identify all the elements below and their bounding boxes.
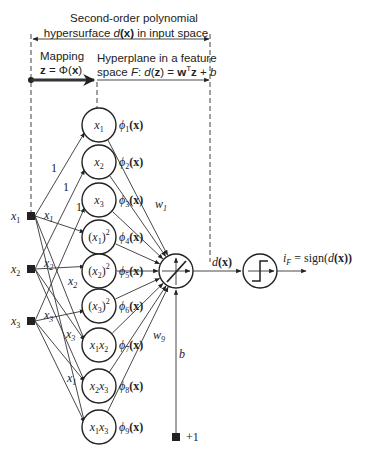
feature-phi-label: ϕ4(x): [119, 230, 143, 246]
bias-label: b: [179, 347, 185, 361]
sign-node: [243, 254, 277, 288]
summation-node: [159, 254, 193, 288]
decision-value-label: d(x): [212, 255, 232, 269]
edge-label-x3-b: x3: [65, 327, 75, 343]
bias-terminal-node: [172, 433, 180, 441]
input-node-label: x3: [10, 314, 20, 330]
feature-phi-label: ϕ7(x): [119, 338, 143, 354]
feature-to-sum-edge: [110, 176, 166, 256]
feature-node: x2ϕ2(x): [82, 145, 143, 179]
edge-label-x2-b: x2: [67, 274, 77, 290]
input-node-x2: [27, 265, 35, 273]
edge-label-one-2: 1: [63, 180, 69, 194]
edge-label-x1-a: x1: [43, 208, 53, 224]
feature-phi-label: ϕ5(x): [119, 264, 143, 280]
edge-label-one-3: 1: [76, 200, 82, 214]
feature-phi-label: ϕ3(x): [119, 193, 143, 209]
input-to-feature-edge: [35, 266, 85, 269]
input-node-x1: [27, 212, 35, 220]
weight-w1-label: w1: [155, 197, 167, 213]
header-title-line2: hypersurface d(x) in input space: [44, 27, 208, 39]
edge-label-x1-b: x1: [66, 371, 76, 387]
feature-node: (x2)2ϕ5(x): [82, 254, 143, 288]
hyperplane-equation: space F: d(z) = wTz + b: [97, 64, 217, 78]
input-to-feature-edge: [35, 170, 85, 269]
feature-phi-label: ϕ9(x): [119, 420, 143, 436]
feature-node: x1x3ϕ9(x): [82, 410, 143, 444]
feature-node: (x1)2ϕ4(x): [82, 220, 143, 254]
weight-w9-label: w9: [153, 328, 165, 344]
header-title-line1: Second-order polynomial: [70, 12, 198, 24]
output-label: iF = sign(d(x)): [283, 251, 352, 267]
feature-node: x1ϕ1(x): [82, 108, 143, 142]
edge-label-one-1: 1: [51, 161, 57, 175]
feature-phi-label: ϕ1(x): [119, 118, 143, 134]
input-node-x3: [27, 317, 35, 325]
hyperplane-label-line1: Hyperplane in a feature: [97, 52, 217, 64]
input-nodes-group: x1x2x3: [10, 209, 35, 330]
svm-polynomial-network-diagram: Second-order polynomial hypersurface d(x…: [0, 0, 365, 468]
mapping-equation: z = Φ(x): [40, 64, 82, 76]
feature-phi-label: ϕ6(x): [119, 299, 143, 315]
feature-phi-label: ϕ2(x): [119, 155, 143, 171]
bias-terminal-label: +1: [186, 430, 199, 444]
edge-label-x3-a: x3: [43, 308, 53, 324]
mapping-label: Mapping: [40, 50, 84, 62]
input-node-label: x2: [10, 262, 20, 278]
feature-to-sum-edge: [115, 278, 159, 299]
feature-to-sum-edge: [116, 244, 160, 264]
input-to-feature-edge: [35, 216, 85, 340]
feature-node: x2x3ϕ8(x): [82, 369, 143, 403]
feature-nodes-group: x1ϕ1(x)x2ϕ2(x)x3ϕ3(x)(x1)2ϕ4(x)(x2)2ϕ5(x…: [82, 108, 143, 444]
feature-node: (x3)2ϕ6(x): [82, 289, 143, 323]
feature-phi-label: ϕ8(x): [119, 379, 143, 395]
input-node-label: x1: [10, 209, 20, 225]
